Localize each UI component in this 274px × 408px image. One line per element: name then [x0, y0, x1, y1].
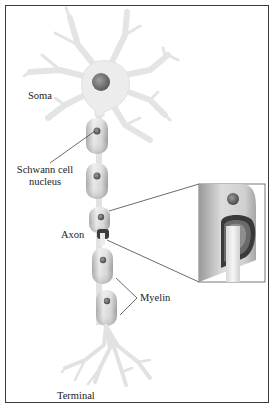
myelin-segment	[86, 163, 108, 199]
schwann-nucleus	[104, 298, 110, 304]
myelin-leader-1	[116, 278, 137, 298]
schwann-nucleus	[100, 257, 106, 263]
myelin-segment	[86, 118, 108, 154]
myelin-leader-2	[120, 298, 137, 315]
neuron-diagram	[0, 0, 274, 408]
inset-leader-top	[109, 184, 199, 211]
myelin-segment	[96, 290, 117, 326]
inset-leader-bottom	[107, 240, 199, 282]
label-myelin: Myelin	[140, 292, 170, 304]
soma-nucleus	[92, 73, 110, 91]
label-schwann-line1: Schwann cell	[10, 164, 80, 176]
label-terminal: Terminal	[57, 390, 95, 402]
axon-terminals	[62, 326, 150, 385]
myelin-segment	[92, 248, 113, 284]
schwann-nucleus	[98, 214, 104, 220]
label-axon: Axon	[61, 229, 84, 241]
myelin-segments	[86, 118, 117, 326]
label-schwann-line2: nucleus	[10, 176, 80, 188]
label-soma: Soma	[28, 90, 52, 102]
leader-lines	[50, 131, 199, 315]
inset-magnified-sheath	[199, 184, 265, 286]
schwann-nucleus	[94, 173, 101, 180]
